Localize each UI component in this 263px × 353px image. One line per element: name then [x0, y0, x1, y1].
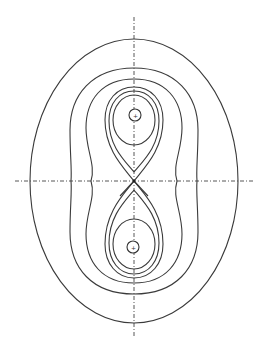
saddle-point [133, 180, 136, 183]
charge-bottom: + [127, 241, 139, 253]
equipotential-diagram: + + [0, 0, 263, 353]
charge-top: + [129, 109, 141, 121]
charge-top-label: + [133, 112, 138, 119]
charge-bottom-label: + [131, 244, 136, 251]
separatrix-cross-lower-left [120, 181, 134, 196]
separatrix-cross-lower-right [134, 181, 148, 196]
